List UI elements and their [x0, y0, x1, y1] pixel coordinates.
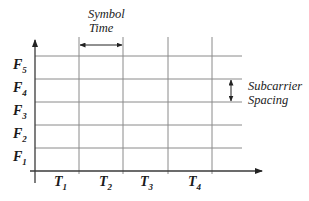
- label-t1: T1: [54, 174, 67, 192]
- label-t2: T2: [99, 174, 112, 192]
- subcarrier-spacing-line1: Subcarrier: [248, 79, 302, 93]
- label-t4: T4: [188, 174, 201, 192]
- symbol-time-line1: Symbol: [88, 7, 125, 21]
- horizontal-gridlines: [35, 56, 242, 148]
- label-f2: F2: [13, 126, 27, 144]
- label-f1: F1: [13, 149, 27, 167]
- subcarrier-spacing-annotation: Subcarrier Spacing: [248, 79, 302, 107]
- label-f3: F3: [13, 103, 27, 121]
- label-f4: F4: [13, 80, 27, 98]
- vertical-gridlines: [79, 37, 212, 174]
- subcarrier-spacing-line2: Spacing: [248, 93, 302, 107]
- symbol-time-annotation: Symbol Time: [88, 7, 125, 35]
- label-t3: T3: [140, 174, 153, 192]
- symbol-time-line2: Time: [88, 21, 125, 35]
- label-f5: F5: [13, 57, 27, 75]
